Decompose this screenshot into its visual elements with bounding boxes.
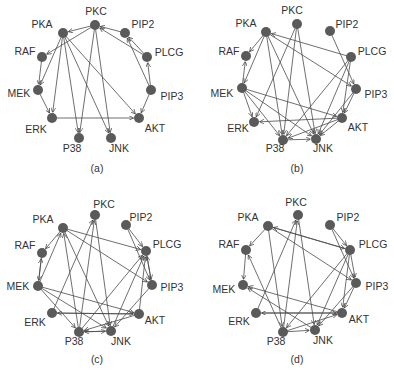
node-label-plcg: PLCG xyxy=(155,46,184,58)
node-label-pip2: PIP2 xyxy=(336,18,359,30)
node-label-pip3: PIP3 xyxy=(366,280,389,292)
edge-pip3-to-akt xyxy=(344,92,354,113)
node-label-p38: P38 xyxy=(267,335,286,347)
edge-pip3-to-pip2 xyxy=(127,38,150,87)
node-raf xyxy=(37,52,47,62)
edge-pka-to-plcg xyxy=(66,229,141,250)
node-label-raf: RAF xyxy=(219,238,240,250)
node-label-pka: PKA xyxy=(32,213,53,225)
node-label-plcg: PLCG xyxy=(153,238,182,250)
node-label-pkc: PKC xyxy=(93,198,115,210)
network-panel-d: PKCPKAPIP2RAFPLCGMEKPIP3ERKAKTP38JNK(d) xyxy=(213,196,389,365)
edge-pip3-to-akt xyxy=(141,93,150,113)
node-mek xyxy=(33,85,43,95)
edge-pka-to-raf xyxy=(46,230,62,249)
node-pka xyxy=(263,221,273,231)
node-pip2 xyxy=(120,28,130,38)
panel-caption: (a) xyxy=(91,162,104,174)
node-label-raf: RAF xyxy=(219,45,240,57)
node-label-akt: AKT xyxy=(349,313,370,325)
edge-erk-to-pkc xyxy=(257,220,296,310)
node-raf xyxy=(241,51,251,61)
node-akt xyxy=(134,113,144,123)
node-pkc xyxy=(293,210,303,220)
node-label-jnk: JNK xyxy=(313,334,333,346)
edge-pip3-to-akt xyxy=(344,286,354,308)
node-pka xyxy=(58,223,68,233)
edge-jnk-to-p38 xyxy=(85,331,109,332)
node-mek xyxy=(238,280,248,290)
edges xyxy=(242,27,354,140)
causal-network-figure: PKCPKAPIP2RAFPLCGMEKPIP3ERKAKTP38JNK(a) … xyxy=(0,0,394,374)
panel-caption: (c) xyxy=(91,353,103,365)
edge-mek-to-akt xyxy=(41,287,134,313)
edge-p38-to-jnk xyxy=(286,139,311,140)
node-raf xyxy=(37,248,47,258)
edge-p38-to-raf xyxy=(248,255,281,329)
node-pip2 xyxy=(325,26,335,36)
node-label-pip2: PIP2 xyxy=(337,211,360,223)
node-pip2 xyxy=(325,220,335,230)
node-pka xyxy=(261,27,271,37)
node-label-pip2: PIP2 xyxy=(132,18,155,30)
edge-raf-to-mek xyxy=(39,256,42,281)
edge-pkc-to-p38 xyxy=(80,28,95,133)
node-label-pka: PKA xyxy=(31,18,52,30)
node-akt xyxy=(337,113,347,123)
edge-mek-to-pka xyxy=(39,233,61,283)
node-label-pkc: PKC xyxy=(281,4,303,16)
edge-pka-to-p38 xyxy=(268,229,282,327)
node-label-p38: P38 xyxy=(266,142,285,154)
edge-akt-to-erk xyxy=(260,118,340,122)
network-panel-a: PKCPKAPIP2RAFPLCGMEKPIP3ERKAKTP38JNK(a) xyxy=(8,5,184,174)
edge-pka-to-pip3 xyxy=(271,228,352,280)
node-mek xyxy=(33,281,43,291)
node-pip3 xyxy=(351,84,361,94)
network-panel-b: PKCPKAPIP2RAFPLCGMEKPIP3ERKAKTP38JNK(b) xyxy=(211,4,388,174)
node-label-jnk: JNK xyxy=(109,142,129,154)
node-erk xyxy=(251,308,261,318)
node-label-jnk: JNK xyxy=(313,142,333,154)
edge-pip2-to-plcg xyxy=(332,227,347,245)
edge-pip2-to-plcg xyxy=(128,227,143,246)
node-label-p38: P38 xyxy=(65,335,84,347)
edge-raf-to-mek xyxy=(244,253,246,280)
edge-mek-to-jnk xyxy=(245,90,312,136)
node-plcg xyxy=(346,52,356,62)
edge-plcg-to-pip3 xyxy=(351,253,356,278)
edge-pka-to-raf xyxy=(250,228,266,246)
node-label-erk: ERK xyxy=(227,122,249,134)
node-erk xyxy=(47,308,57,318)
node-label-plcg: PLCG xyxy=(358,45,387,57)
node-pip3 xyxy=(146,85,156,95)
node-akt xyxy=(337,308,347,318)
node-label-pka: PKA xyxy=(237,211,258,223)
node-label-mek: MEK xyxy=(7,280,30,292)
node-label-akt: AKT xyxy=(145,122,166,134)
node-pkc xyxy=(90,20,100,30)
node-label-pip2: PIP2 xyxy=(130,211,153,223)
edge-mek-to-p38 xyxy=(244,90,280,135)
panel-caption: (d) xyxy=(291,353,304,365)
edge-pkc-to-jnk xyxy=(95,28,110,133)
node-mek xyxy=(237,83,247,93)
node-label-erk: ERK xyxy=(228,315,250,327)
node-pip3 xyxy=(351,278,361,288)
node-label-pip3: PIP3 xyxy=(365,88,388,100)
node-label-pip3: PIP3 xyxy=(161,281,184,293)
node-pkc xyxy=(90,210,100,220)
node-pip3 xyxy=(147,280,157,290)
node-plcg xyxy=(141,246,151,256)
node-label-pkc: PKC xyxy=(285,196,307,208)
node-label-plcg: PLCG xyxy=(359,238,388,250)
node-label-pip3: PIP3 xyxy=(161,90,184,102)
node-label-raf: RAF xyxy=(15,239,36,251)
edge-raf-to-mek xyxy=(39,60,42,85)
edge-pka-to-akt xyxy=(65,35,135,114)
node-pka xyxy=(58,28,68,38)
node-label-erk: ERK xyxy=(25,123,47,135)
edge-pka-to-raf xyxy=(250,34,265,52)
node-label-akt: AKT xyxy=(348,121,369,133)
node-label-akt: AKT xyxy=(145,314,166,326)
edge-p38-to-jnk xyxy=(286,330,310,332)
